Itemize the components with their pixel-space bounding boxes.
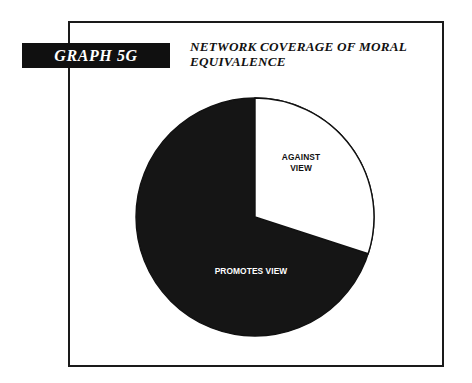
pie-label-against-view-line-2: VIEW xyxy=(266,163,336,174)
pie-chart-svg xyxy=(135,97,375,337)
pie-label-against-view: AGAINST VIEW xyxy=(266,152,336,173)
pie-label-promotes-view-line-1: PROMOTES VIEW xyxy=(207,266,295,277)
chart-title: NETWORK COVERAGE OF MORAL EQUIVALENCE xyxy=(190,40,430,69)
chart-title-line-2: EQUIVALENCE xyxy=(190,55,430,70)
graph-number-tag: GRAPH 5G xyxy=(22,43,170,68)
chart-title-line-1: NETWORK COVERAGE OF MORAL xyxy=(190,40,430,55)
pie-chart xyxy=(135,97,375,337)
pie-label-against-view-line-1: AGAINST xyxy=(266,152,336,163)
pie-label-promotes-view: PROMOTES VIEW xyxy=(207,266,295,277)
